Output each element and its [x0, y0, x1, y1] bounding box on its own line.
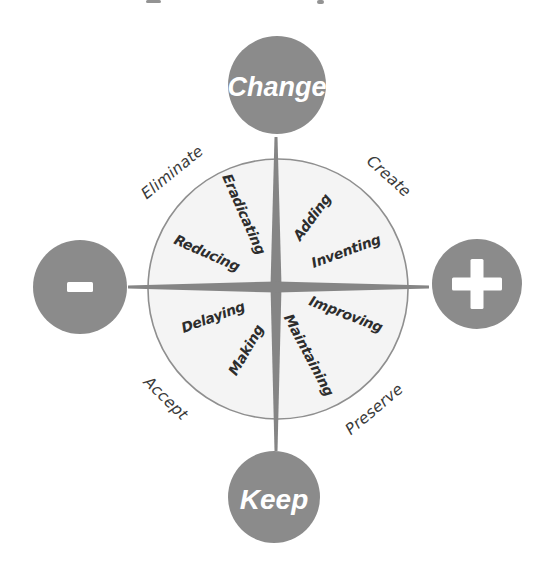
- outer-label-create: Create: [363, 152, 414, 201]
- minus-icon: [67, 282, 93, 292]
- cropped-text-artifact: [146, 0, 161, 3]
- change-label: Change: [227, 72, 326, 102]
- compass-diagram: Eradicating Adding Reducing Inventing De…: [0, 0, 548, 565]
- cropped-text-artifact: [317, 0, 324, 4]
- outer-label-accept: Accept: [139, 372, 192, 424]
- keep-label: Keep: [240, 484, 308, 515]
